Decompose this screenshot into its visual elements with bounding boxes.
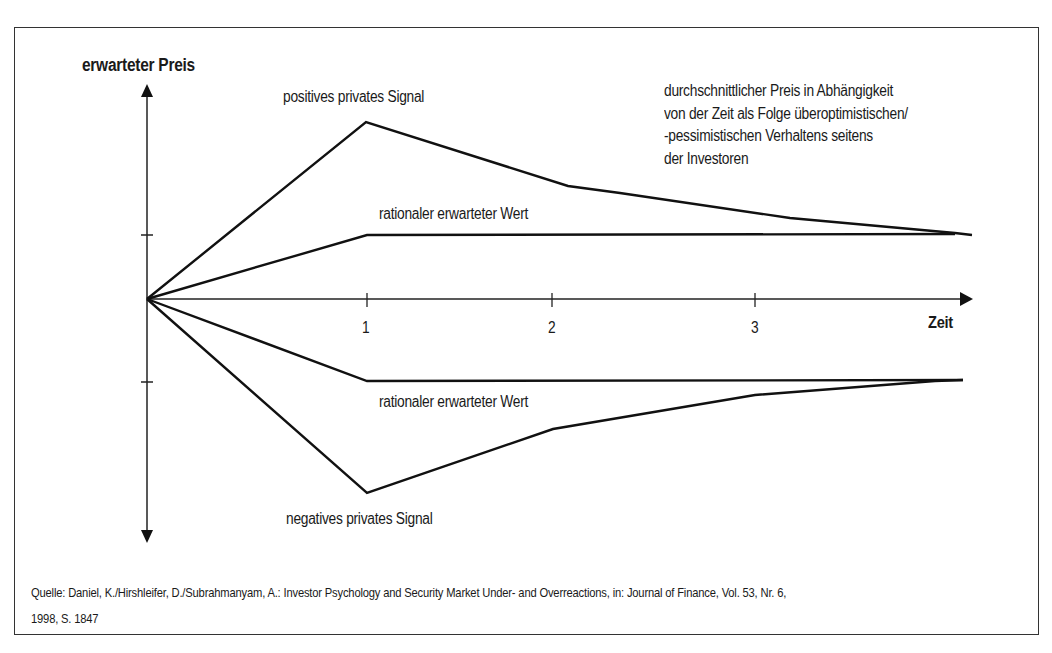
description-line: -pessimistischen Verhaltens seitens <box>664 125 908 148</box>
positive-signal-label: positives privates Signal <box>283 87 424 107</box>
y-axis-arrow-down-icon <box>141 530 153 543</box>
description-line: durchschnittlicher Preis in Abhängigkeit <box>664 80 908 103</box>
source-line: Quelle: Daniel, K./Hirshleifer, D./Subra… <box>31 580 1020 606</box>
x-tick-label-2: 2 <box>548 318 556 338</box>
description-line: der Investoren <box>664 148 908 171</box>
rational-upper-label: rationaler erwarteter Wert <box>379 204 528 224</box>
rational-expected-value-upper-line <box>147 234 955 299</box>
description-line: von der Zeit als Folge überoptimistische… <box>664 103 908 126</box>
x-axis-label: Zeit <box>928 313 953 333</box>
y-axis-arrow-up-icon <box>141 84 153 97</box>
x-axis-arrow-icon <box>960 292 973 306</box>
x-tick-label-3: 3 <box>751 318 759 338</box>
y-axis-label: erwarteter Preis <box>82 55 195 75</box>
source-line: 1998, S. 1847 <box>31 606 1020 632</box>
negative-signal-label: negatives privates Signal <box>286 509 433 529</box>
figure-description: durchschnittlicher Preis in Abhängigkeit… <box>664 80 908 170</box>
x-tick-label-1: 1 <box>362 318 370 338</box>
source-citation: Quelle: Daniel, K./Hirshleifer, D./Subra… <box>31 580 1020 632</box>
rational-expected-value-lower-line <box>147 299 963 381</box>
rational-lower-label: rationaler erwarteter Wert <box>379 392 528 412</box>
